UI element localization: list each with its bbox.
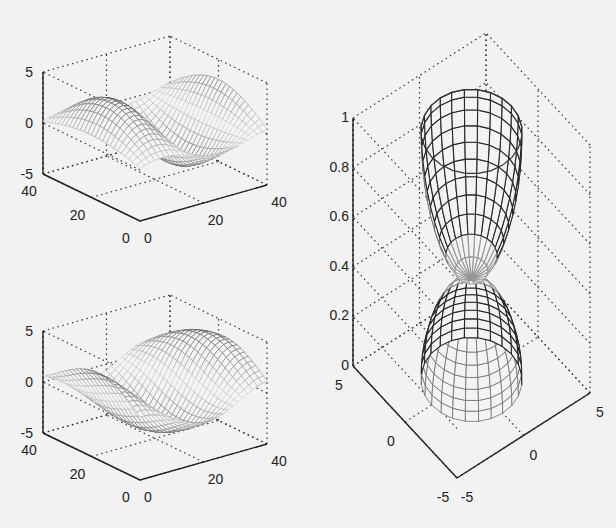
tick-label: 0: [530, 447, 538, 463]
tick-label: 1: [341, 109, 349, 125]
tick-label: 5: [596, 404, 604, 420]
tick-label: 40: [271, 453, 287, 469]
tick-label: 0.2: [330, 307, 350, 323]
tick-label: 20: [208, 471, 224, 487]
figure: -5050204002040 -5050204002040 00.20.40.6…: [0, 0, 616, 528]
tick-label: 0: [122, 489, 130, 505]
tick-label: 5: [25, 323, 33, 339]
tick-label: 0.4: [330, 258, 350, 274]
tick-label: 20: [70, 207, 86, 223]
tick-label: 0.8: [330, 159, 350, 175]
tick-label: -5: [461, 489, 474, 505]
tick-label: 5: [25, 64, 33, 80]
surface-plot-bottom-left: -5050204002040: [21, 295, 287, 505]
tick-label: 0: [387, 433, 395, 449]
tick-label: 0: [341, 357, 349, 373]
tick-label: 5: [335, 377, 343, 393]
tick-label: 40: [21, 183, 37, 199]
tick-label: 0: [144, 489, 152, 505]
tick-label: -5: [21, 425, 34, 441]
tick-label: -5: [21, 166, 34, 182]
tick-label: 20: [70, 466, 86, 482]
tick-label: 40: [21, 442, 37, 458]
surface-mesh: [421, 90, 522, 422]
surface-plot-right: 00.20.40.60.81-505-505: [330, 33, 605, 505]
tick-label: 0: [144, 230, 152, 246]
tick-label: -5: [437, 489, 450, 505]
surface-mesh: [43, 329, 267, 432]
tick-label: 40: [271, 194, 287, 210]
tick-label: 20: [208, 212, 224, 228]
tick-label: 0: [25, 115, 33, 131]
tick-label: 0.6: [330, 208, 350, 224]
tick-label: 0: [25, 374, 33, 390]
tick-label: 0: [122, 230, 130, 246]
surface-plot-top-left: -5050204002040: [21, 36, 287, 246]
